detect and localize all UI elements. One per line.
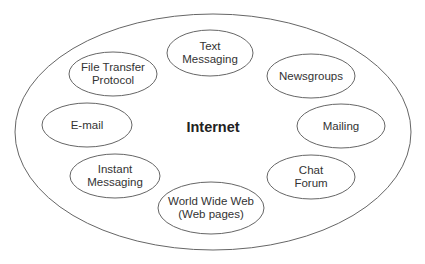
- node-label-e-mail: E-mail: [71, 119, 104, 132]
- node-label-text-messaging: TextMessaging: [182, 40, 238, 66]
- node-label-line: Chat: [294, 164, 327, 177]
- node-label-line: Instant: [87, 163, 143, 176]
- node-label-line: (Web pages): [168, 208, 254, 221]
- node-label-line: E-mail: [71, 119, 104, 132]
- node-label-mailing: Mailing: [323, 120, 359, 133]
- internet-label: Internet: [186, 119, 239, 135]
- node-label-line: Newsgroups: [279, 70, 343, 83]
- node-label-line: Messaging: [182, 53, 238, 66]
- node-label-chat-forum: ChatForum: [294, 164, 327, 190]
- node-label-line: World Wide Web: [168, 195, 254, 208]
- node-label-instant-messaging: InstantMessaging: [87, 163, 143, 189]
- node-label-line: Text: [182, 40, 238, 53]
- node-label-line: Forum: [294, 177, 327, 190]
- node-label-file-transfer-protocol: File TransferProtocol: [81, 61, 145, 87]
- node-label-line: Protocol: [81, 74, 145, 87]
- node-label-line: Mailing: [323, 120, 359, 133]
- node-label-world-wide-web: World Wide Web(Web pages): [168, 195, 254, 221]
- node-label-newsgroups: Newsgroups: [279, 70, 343, 83]
- node-label-line: File Transfer: [81, 61, 145, 74]
- node-label-line: Messaging: [87, 176, 143, 189]
